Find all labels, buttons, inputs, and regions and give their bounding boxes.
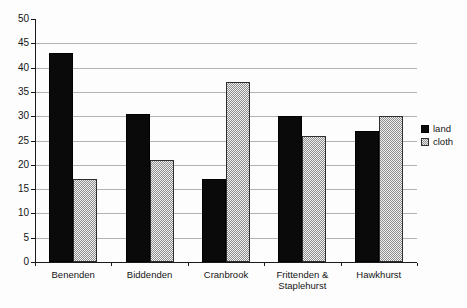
x-axis-line bbox=[35, 262, 417, 263]
x-category-label: Hawkhurst bbox=[341, 269, 417, 280]
cloth-swatch-icon bbox=[421, 138, 429, 146]
y-tick-label: 10 bbox=[5, 208, 29, 218]
bar-land-hawkhurst bbox=[355, 131, 379, 262]
y-tick-label: 5 bbox=[5, 233, 29, 243]
x-category-label: Biddenden bbox=[111, 269, 187, 280]
bar-cloth-cranbrook bbox=[226, 82, 250, 262]
bar-land-biddenden bbox=[126, 114, 150, 262]
plot-area: 05101520253035404550 BenendenBiddendenCr… bbox=[0, 0, 467, 308]
bar-cloth-biddenden bbox=[150, 160, 174, 262]
legend-label-cloth: cloth bbox=[433, 137, 453, 147]
y-tick-label: 30 bbox=[5, 111, 29, 121]
y-tick-label: 20 bbox=[5, 160, 29, 170]
y-tick-label: 15 bbox=[5, 184, 29, 194]
x-tick-mark bbox=[341, 263, 342, 266]
x-tick-mark bbox=[35, 263, 36, 266]
bar-land-cranbrook bbox=[202, 179, 226, 262]
bar-cloth-benenden bbox=[73, 179, 97, 262]
land-swatch-icon bbox=[421, 125, 429, 133]
bar-chart: 05101520253035404550 BenendenBiddendenCr… bbox=[0, 0, 467, 308]
bar-cloth-hawkhurst bbox=[379, 116, 403, 262]
gridline-40 bbox=[36, 68, 417, 69]
y-tick-label: 0 bbox=[5, 257, 29, 267]
x-tick-mark bbox=[264, 263, 265, 266]
y-axis-line bbox=[35, 19, 36, 263]
legend-item-cloth: cloth bbox=[421, 137, 453, 147]
x-tick-mark bbox=[417, 263, 418, 266]
bar-land-frittenden-staplehurst bbox=[278, 116, 302, 262]
legend: land cloth bbox=[421, 124, 453, 147]
bar-land-benenden bbox=[49, 53, 73, 262]
x-tick-mark bbox=[188, 263, 189, 266]
y-tick-label: 25 bbox=[5, 136, 29, 146]
y-tick-label: 45 bbox=[5, 38, 29, 48]
x-category-label: Cranbrook bbox=[188, 269, 264, 280]
legend-item-land: land bbox=[421, 124, 453, 134]
gridline-45 bbox=[36, 43, 417, 44]
legend-label-land: land bbox=[433, 124, 451, 134]
y-tick-label: 40 bbox=[5, 63, 29, 73]
bar-cloth-frittenden-staplehurst bbox=[302, 136, 326, 262]
x-category-label: Frittenden & Staplehurst bbox=[264, 269, 340, 291]
x-category-label: Benenden bbox=[35, 269, 111, 280]
x-tick-mark bbox=[111, 263, 112, 266]
y-tick-label: 35 bbox=[5, 87, 29, 97]
y-tick-label: 50 bbox=[5, 14, 29, 24]
